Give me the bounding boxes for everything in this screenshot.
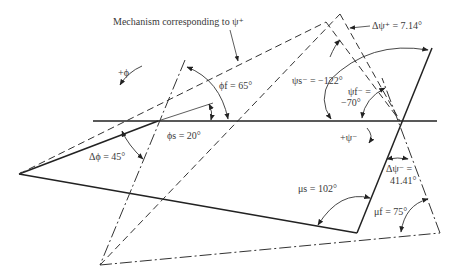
dashed-coupler-lower xyxy=(100,14,340,265)
phi-s-arc xyxy=(209,104,212,120)
phi-s-label: ϕs = 20° xyxy=(167,130,201,141)
psi-s-minus-label: ψs⁻ = −122° xyxy=(292,75,343,86)
input-crank-final xyxy=(100,60,185,265)
delta-psi-minus-label-1: Δψ⁻ = xyxy=(386,163,412,174)
phi-f-label: ϕf = 65° xyxy=(219,80,252,91)
delta-psi-minus-arc xyxy=(387,158,408,159)
dashed-coupler-upper xyxy=(19,22,326,174)
delta-psi-plus-arc xyxy=(330,40,340,57)
delta-psi-minus-label-2: 41.41° xyxy=(390,175,417,186)
delta-psi-plus-label: Δψ⁺ = 7.14° xyxy=(372,20,422,31)
plus-psi-minus-label: +ψ⁻ xyxy=(340,132,357,143)
delta-phi-label: Δϕ = 45° xyxy=(89,151,125,162)
coupler-final xyxy=(100,233,440,265)
delta-psi-plus-pointer xyxy=(350,26,370,28)
four-bar-linkage-diagram: Mechanism corresponding to ψ⁺ +ϕ ϕf = 65… xyxy=(0,0,455,279)
plus-phi-label: +ϕ xyxy=(118,67,129,78)
psi-f-minus-label-1: ψf⁻ = xyxy=(348,86,371,97)
phi-f-arc xyxy=(187,67,228,119)
plus-psi-minus-arc xyxy=(367,128,371,143)
title-label: Mechanism corresponding to ψ⁺ xyxy=(113,16,244,27)
mu-s-label: μs = 102° xyxy=(298,183,337,194)
input-crank-start xyxy=(19,121,158,174)
dashed-rocker-upper xyxy=(326,22,400,121)
mu-f-label: μf = 75° xyxy=(374,206,407,217)
psi-f-minus-label-2: −70° xyxy=(341,97,361,108)
title-pointer xyxy=(230,30,238,61)
